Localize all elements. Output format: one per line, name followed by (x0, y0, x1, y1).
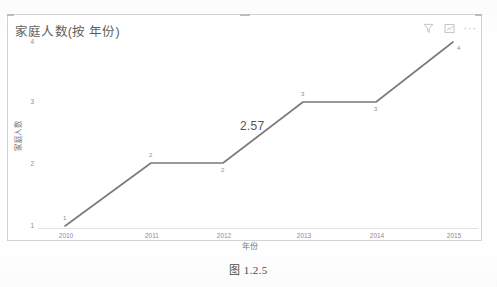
data-label-2015: 4 (457, 45, 460, 51)
series-line-household-size (65, 42, 453, 226)
y-tick-label-2: 2 (20, 160, 34, 167)
x-tick-label-2012: 2012 (208, 232, 240, 239)
line-chart-visual[interactable]: 家庭人数(按 年份) ··· (7, 14, 482, 241)
x-tick-label-2011: 2011 (136, 232, 168, 239)
data-label-2013: 3 (301, 91, 304, 97)
x-axis-title: 年份 (230, 240, 270, 251)
scanned-page: 家庭人数(按 年份) ··· (0, 0, 497, 287)
x-tick-label-2013: 2013 (288, 232, 320, 239)
x-tick-label-2015: 2015 (438, 232, 470, 239)
annotation-average-value: 2.57 (240, 119, 265, 133)
x-tick-label-2014: 2014 (361, 232, 393, 239)
plot-area: 4 3 2 1 家庭人数 2010 2011 2012 2013 2014 20… (8, 15, 483, 242)
data-label-2011: 2 (149, 152, 152, 158)
y-tick-label-1: 1 (20, 222, 34, 229)
figure-caption: 图 1.2.5 (0, 261, 497, 277)
data-label-2010: 1 (63, 215, 66, 221)
y-axis-title: 家庭人数 (12, 114, 23, 158)
y-tick-label-3: 3 (20, 98, 34, 105)
y-tick-label-4: 4 (20, 38, 34, 45)
x-tick-label-2010: 2010 (50, 232, 82, 239)
data-label-2012: 2 (221, 167, 224, 173)
data-label-2014: 3 (374, 106, 377, 112)
